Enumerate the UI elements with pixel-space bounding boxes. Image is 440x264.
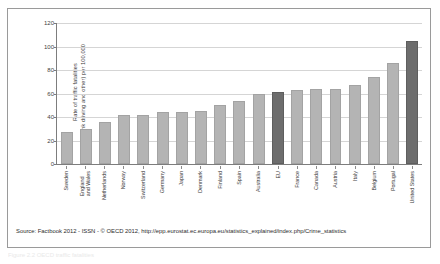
y-axis-tick-label: 60 xyxy=(47,91,54,97)
bar-slot xyxy=(345,23,364,164)
x-axis-category-label: Belgium xyxy=(371,171,377,190)
x-axis-category-label: Norway xyxy=(120,171,126,189)
x-axis-category: Norway xyxy=(114,166,133,212)
x-axis-category-label: Netherlands xyxy=(101,171,107,200)
x-axis-category-label: Sweden xyxy=(63,171,69,190)
bar-slot xyxy=(172,23,191,164)
bar xyxy=(80,129,92,164)
bar-slot xyxy=(95,23,114,164)
x-axis-tick-mark xyxy=(258,166,259,169)
bar-slot xyxy=(76,23,95,164)
x-axis-tick-mark xyxy=(297,166,298,169)
y-axis-tick-label: 20 xyxy=(47,138,54,144)
bar xyxy=(61,132,73,164)
bar xyxy=(214,105,226,164)
x-axis-tick-mark xyxy=(393,166,394,169)
figure-caption: Figure 2.2 OECD traffic fatalities xyxy=(8,252,428,258)
x-axis-category: EU xyxy=(268,166,287,212)
x-axis-category: Japan xyxy=(172,166,191,212)
x-axis-category: Portugal xyxy=(384,166,403,212)
chart-area: Rate of traffic fatalities (drunk drivin… xyxy=(8,9,432,223)
x-axis-category-label: Portugal xyxy=(390,171,396,191)
bar-slot xyxy=(211,23,230,164)
bar xyxy=(368,77,380,164)
x-axis-category: Spain xyxy=(229,166,248,212)
x-axis-category: Netherlands xyxy=(95,166,114,212)
bar-slot xyxy=(364,23,383,164)
bar-slot xyxy=(153,23,172,164)
y-axis-tick-label: 100 xyxy=(44,44,54,50)
source-note: Source: Factbook 2012 - ISSN - © OECD 20… xyxy=(16,228,426,234)
bar xyxy=(99,122,111,164)
bar xyxy=(137,115,149,164)
bar-slot xyxy=(268,23,287,164)
bar xyxy=(349,85,361,164)
y-axis-tick-label: 80 xyxy=(47,67,54,73)
bar xyxy=(118,115,130,164)
x-axis-category: Germany xyxy=(152,166,171,212)
bar-slot xyxy=(403,23,422,164)
x-axis-tick-mark xyxy=(143,166,144,169)
x-axis-category-label: Australia xyxy=(255,171,261,192)
x-axis-category: Australia xyxy=(249,166,268,212)
x-axis-tick-mark xyxy=(162,166,163,169)
x-axis-tick-mark xyxy=(316,166,317,169)
x-axis-tick-mark xyxy=(374,166,375,169)
x-axis-tick-mark xyxy=(355,166,356,169)
bar-slot xyxy=(134,23,153,164)
bar xyxy=(291,90,303,164)
x-axis-category: United States xyxy=(403,166,422,212)
y-axis-tick-label: 40 xyxy=(47,114,54,120)
x-axis-category-label: Denmark xyxy=(197,171,203,193)
bar-slot xyxy=(249,23,268,164)
bar-slot xyxy=(326,23,345,164)
x-axis-category-label: Switzerland xyxy=(140,171,146,199)
x-axis-category: Sweden xyxy=(56,166,75,212)
x-axis-category: Canada xyxy=(306,166,325,212)
bar-slot xyxy=(287,23,306,164)
x-axis-tick-mark xyxy=(85,166,86,169)
x-axis-tick-mark xyxy=(200,166,201,169)
x-axis-category: Belgium xyxy=(364,166,383,212)
x-axis-tick-mark xyxy=(412,166,413,169)
x-axis-tick-mark xyxy=(66,166,67,169)
bar xyxy=(387,63,399,164)
figure-container: Rate of traffic fatalities (drunk drivin… xyxy=(7,8,431,248)
y-axis-tick-label: 120 xyxy=(44,20,54,26)
x-axis-category: Austria xyxy=(326,166,345,212)
bar-slot xyxy=(57,23,76,164)
bar-series xyxy=(57,23,422,164)
x-axis-tick-mark xyxy=(335,166,336,169)
x-axis-category-label: Japan xyxy=(178,171,184,186)
bar-slot xyxy=(383,23,402,164)
bar xyxy=(176,112,188,164)
bar-slot xyxy=(307,23,326,164)
bar xyxy=(157,112,169,164)
x-axis-tick-mark xyxy=(220,166,221,169)
bar xyxy=(272,92,284,164)
x-axis-category-label: EU xyxy=(275,171,281,179)
x-axis-category-label: Canada xyxy=(313,171,319,190)
bar xyxy=(233,101,245,164)
x-axis-tick-mark xyxy=(181,166,182,169)
x-axis-category: Finland xyxy=(210,166,229,212)
x-axis-tick-mark xyxy=(123,166,124,169)
bar xyxy=(330,89,342,164)
x-axis-category-label: Spain xyxy=(236,171,242,185)
x-axis-category-label: United States xyxy=(409,171,415,203)
y-axis-tick-mark xyxy=(54,164,57,165)
bar xyxy=(310,89,322,164)
x-axis-category-label: France xyxy=(294,171,300,188)
x-axis-category: France xyxy=(287,166,306,212)
x-axis-category: Italy xyxy=(345,166,364,212)
bar xyxy=(406,41,418,164)
y-axis-tick-label: 0 xyxy=(51,161,54,167)
bar-slot xyxy=(115,23,134,164)
bar-slot xyxy=(230,23,249,164)
x-axis-category-labels: SwedenEngland and WalesNetherlandsNorway… xyxy=(56,166,422,212)
x-axis-category-label: England and Wales xyxy=(79,171,91,196)
x-axis-tick-mark xyxy=(239,166,240,169)
x-axis-category-label: Austria xyxy=(332,171,338,188)
x-axis-category-label: Finland xyxy=(217,171,223,189)
x-axis-category: England and Wales xyxy=(75,166,94,212)
